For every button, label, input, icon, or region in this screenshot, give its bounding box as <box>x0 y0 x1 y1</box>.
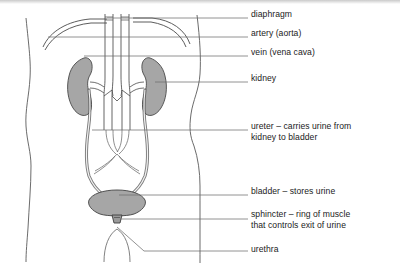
leader-urethra <box>117 227 248 251</box>
renal-vessels <box>90 82 144 101</box>
label-ureter-line2: kidney to bladder <box>251 132 317 143</box>
ureter-right <box>129 90 148 196</box>
ureter-left <box>86 90 105 196</box>
bladder <box>89 190 146 216</box>
urethra <box>104 229 130 262</box>
label-vein-vena-cava: vein (vena cava) <box>251 47 315 58</box>
great-vessels <box>104 14 130 130</box>
aorta-vessel <box>121 14 122 130</box>
label-sphincter-line1: sphincter – ring of muscle <box>251 209 350 220</box>
label-urethra: urethra <box>251 244 279 255</box>
vena-cava-vessel <box>104 14 105 130</box>
kidney-right <box>142 58 167 116</box>
label-kidney: kidney <box>251 73 276 84</box>
sphincter <box>112 215 122 223</box>
diaphragm-curve <box>43 18 190 50</box>
label-bladder: bladder – stores urine <box>251 186 335 197</box>
leader-lines <box>48 18 248 251</box>
kidney-left <box>68 58 93 116</box>
pelvic-vessels <box>94 130 140 174</box>
label-artery-aorta: artery (aorta) <box>251 28 301 39</box>
diagram-page: diaphragm artery (aorta) vein (vena cava… <box>0 0 400 268</box>
label-diaphragm: diaphragm <box>251 9 292 20</box>
label-ureter-line1: ureter – carries urine from <box>251 121 351 132</box>
label-sphincter-line2: that controls exit of urine <box>251 220 346 231</box>
